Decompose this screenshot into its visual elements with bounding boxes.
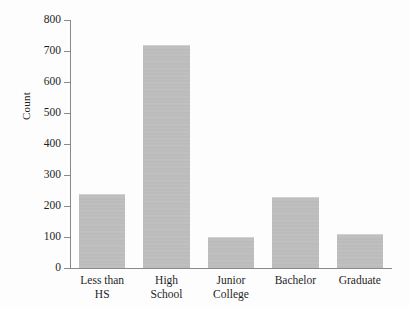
bar <box>272 197 318 268</box>
bar-chart: Count 0100200300400500600700800 Less tha… <box>0 0 409 309</box>
x-axis-tick-label: Graduate <box>322 273 398 287</box>
x-axis-tick-label-line: College <box>193 287 269 301</box>
bar <box>337 234 383 268</box>
x-axis-tick-label-line: Graduate <box>322 273 398 287</box>
bar <box>143 45 189 268</box>
bar <box>79 194 125 268</box>
bars-group <box>0 0 409 309</box>
bar <box>208 237 254 268</box>
